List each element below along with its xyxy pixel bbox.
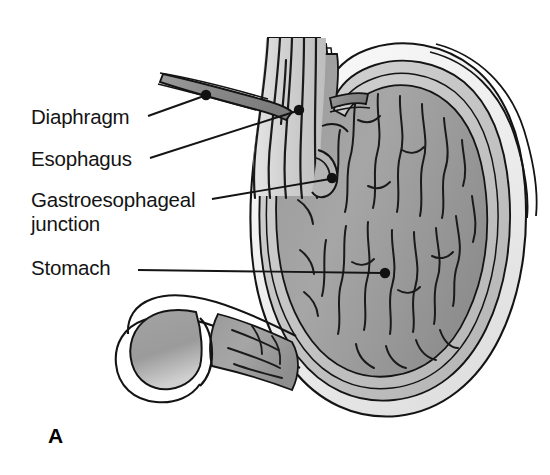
label-esophagus: Esophagus: [31, 147, 132, 171]
label-gej-line2: junction: [31, 212, 100, 235]
label-gastroesophageal-junction: Gastroesophageal junction: [31, 188, 195, 236]
label-stomach: Stomach: [31, 256, 111, 280]
anatomy-figure: Diaphragm Esophagus Gastroesophageal jun…: [0, 0, 550, 475]
label-diaphragm: Diaphragm: [31, 105, 129, 129]
leader-dot-gej: [327, 173, 337, 183]
leader-dot-diaphragm: [201, 90, 211, 100]
label-gej-line1: Gastroesophageal: [31, 188, 195, 211]
stomach-anatomy-illustration: [0, 0, 550, 475]
leader-dot-esophagus: [294, 105, 304, 115]
panel-label-a: A: [48, 424, 63, 448]
leader-dot-stomach: [380, 268, 390, 278]
